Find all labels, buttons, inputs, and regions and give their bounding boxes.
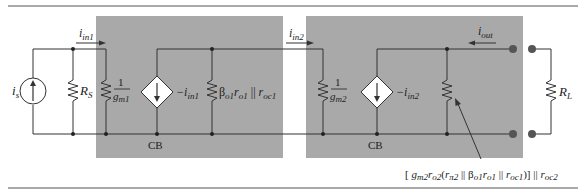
- circuit-diagram: is RS 1 gm1 −iin1 βo1ro1 || roc1 1 gm2 −…: [0, 0, 586, 195]
- rin1-num: 1: [118, 76, 124, 88]
- source-label: is: [12, 83, 20, 100]
- iin1-label: iin1: [79, 26, 94, 42]
- rin2-num: 1: [335, 76, 341, 88]
- iin2-label: iin2: [289, 26, 304, 42]
- output-resistance-annotation: [ gm2ro2(rπ2 || βo1ro1 || roc1)] || roc2: [405, 168, 558, 182]
- stage2-label: CB: [368, 139, 383, 151]
- rl-label: RL: [558, 84, 572, 101]
- rs-label: RS: [79, 83, 93, 100]
- current-source-icon: [20, 78, 46, 104]
- stage1-label: CB: [148, 139, 163, 151]
